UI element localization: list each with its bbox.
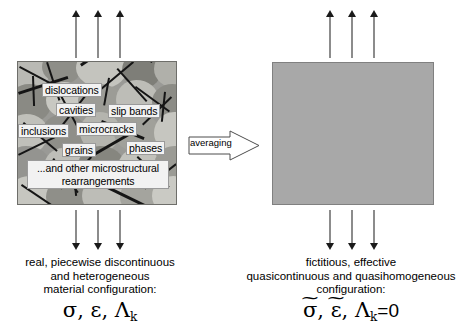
left-formula-internal-var: Λ xyxy=(115,298,130,322)
microstructure-label-grains: grains xyxy=(62,143,96,157)
effective-medium-box xyxy=(272,62,434,205)
microstructure-label-cavities: cavities xyxy=(56,103,96,117)
right-formula-strain-group: ~ε xyxy=(331,298,342,322)
load-arrow-up xyxy=(351,10,353,58)
left-formula-stress: σ xyxy=(63,298,77,322)
load-arrow-up xyxy=(329,10,331,58)
bottom-right-load-arrows xyxy=(329,210,375,250)
load-arrow-down xyxy=(97,210,99,250)
left-formula-internal-var-subscript: k xyxy=(130,310,137,324)
right-formula-stress-tilde: ~ xyxy=(300,290,320,306)
microstructure-label-slip-bands: slip bands xyxy=(108,104,160,118)
diagram-canvas: dislocations cavities slip bands inclusi… xyxy=(0,0,466,334)
microstructure-label-other-rearrangements: ...and other microstructural rearrangeme… xyxy=(27,160,169,189)
microstructure-label-microcracks: microcracks xyxy=(76,122,137,136)
right-formula-internal-var: Λ xyxy=(355,298,370,322)
left-caption-line-3: material configuration: xyxy=(0,283,200,297)
bottom-left-load-arrows xyxy=(75,210,121,250)
load-arrow-up xyxy=(75,10,77,58)
load-arrow-down xyxy=(119,210,121,250)
load-arrow-down xyxy=(329,210,331,250)
load-arrow-up xyxy=(119,10,121,58)
right-caption-line-1: fictitious, effective xyxy=(236,256,466,270)
left-formula-comma-1: , xyxy=(77,298,90,322)
microstructure-label-phases: phases xyxy=(126,141,165,155)
load-arrow-down xyxy=(351,210,353,250)
load-arrow-down xyxy=(75,210,77,250)
right-caption-line-2: quasicontinuous and quasihomogeneous xyxy=(236,270,466,284)
load-arrow-up xyxy=(97,10,99,58)
right-formula-stress-group: ~σ xyxy=(303,298,317,322)
averaging-arrow-label: averaging xyxy=(190,137,232,148)
top-left-load-arrows xyxy=(75,10,121,58)
micrograph-image: dislocations cavities slip bands inclusi… xyxy=(17,61,177,205)
left-formula-strain: ε xyxy=(91,298,102,322)
left-caption-line-1: real, piecewise discontinuous xyxy=(0,256,200,270)
load-arrow-up xyxy=(373,10,375,58)
left-caption-line-2: and heterogeneous xyxy=(0,270,200,284)
right-caption-line-3: configuration: xyxy=(236,283,466,297)
averaging-arrow: averaging xyxy=(188,130,260,161)
right-formula-strain-tilde: ~ xyxy=(326,290,346,306)
right-caption: fictitious, effective quasicontinuous an… xyxy=(236,256,466,297)
load-arrow-down xyxy=(373,210,375,250)
left-formula-comma-2: , xyxy=(101,298,114,322)
top-right-load-arrows xyxy=(329,10,375,58)
right-formula-equals-zero: =0 xyxy=(377,300,399,321)
microstructure-label-dislocations: dislocations xyxy=(42,83,102,97)
microstructure-label-inclusions: inclusions xyxy=(18,124,69,138)
left-caption: real, piecewise discontinuous and hetero… xyxy=(0,256,200,297)
